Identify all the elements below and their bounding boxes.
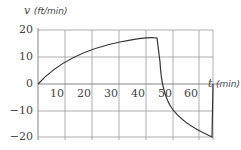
x-tick-40: 40 [131, 87, 145, 100]
velocity-chart [0, 0, 241, 150]
y-tick-0: 0 [3, 77, 33, 90]
x-axis-label: t (min) [208, 77, 240, 90]
x-tick-30: 30 [104, 87, 118, 100]
x-tick-10: 10 [50, 87, 64, 100]
x-tick-20: 20 [77, 87, 91, 100]
y-tick-10: 10 [3, 50, 33, 63]
x-tick-50: 50 [158, 87, 172, 100]
x-tick-60: 60 [184, 87, 198, 100]
y-axis-label: v (ft/min) [24, 4, 67, 17]
y-tick-20: 20 [3, 23, 33, 36]
y-tick-neg20: −20 [3, 130, 33, 143]
y-tick-neg10: −10 [3, 104, 33, 117]
